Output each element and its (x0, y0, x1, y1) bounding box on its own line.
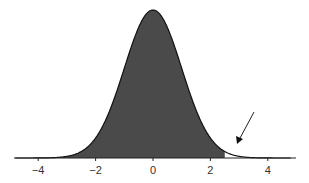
plot-area: −4−2024 (0, 0, 309, 183)
x-axis-ticks: −4−2024 (32, 158, 271, 176)
arrow-annotation (236, 112, 254, 144)
x-tick-label: −4 (32, 164, 45, 176)
x-tick-label: 2 (207, 164, 213, 176)
x-tick-label: 4 (265, 164, 271, 176)
x-tick-label: −2 (89, 164, 102, 176)
x-tick-label: 0 (150, 164, 156, 176)
shaded-area (15, 10, 225, 158)
arrow-head-icon (236, 136, 243, 144)
normal-distribution-chart: −4−2024 −4 −2 0 2 4 (0, 0, 309, 183)
